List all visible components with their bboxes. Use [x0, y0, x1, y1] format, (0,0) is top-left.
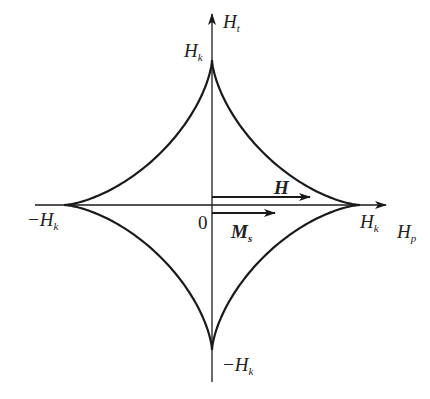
astroid-diagram: [0, 0, 430, 399]
ht-axis-label: Ht: [223, 12, 240, 34]
right-hk-label: Hk: [360, 212, 379, 234]
ms-vector-label: Ms: [231, 222, 252, 244]
origin-label: 0: [198, 213, 208, 232]
h-vector-label: H: [274, 178, 289, 200]
bottom-hk-label: −Hk: [222, 355, 253, 377]
top-hk-label: Hk: [184, 41, 203, 63]
hp-axis-label: Hp: [397, 222, 416, 244]
left-hk-label: −Hk: [27, 210, 58, 232]
